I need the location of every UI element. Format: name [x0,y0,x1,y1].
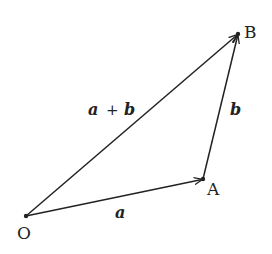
vector-a [26,180,202,217]
label-sum-b: b [124,100,135,119]
label-a-point: A [206,179,220,199]
point-b [236,32,240,36]
diagram-canvas: B A O a b a + b [0,0,272,254]
label-o-point: O [17,223,31,243]
label-sum-plus: + [106,101,119,119]
label-b-point: B [244,22,257,42]
point-a [201,177,205,181]
vector-a-plus-b [26,35,237,216]
label-vector-a: a [115,203,125,222]
vector-diagram: B A O a b a + b [0,0,272,254]
label-vector-b: b [230,100,241,119]
point-o [24,214,28,218]
label-sum-a: a [88,100,98,119]
